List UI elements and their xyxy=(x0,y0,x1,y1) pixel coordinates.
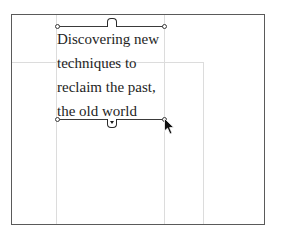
column-guide-right xyxy=(203,62,204,224)
text-frame[interactable]: Discovering new techniques to reclaim th… xyxy=(57,27,167,123)
arrow-cursor-icon xyxy=(164,118,176,136)
text-line: reclaim the past, xyxy=(57,75,167,99)
text-line: techniques to xyxy=(57,51,167,75)
text-line: the old world xyxy=(57,99,167,123)
text-line: Discovering new xyxy=(57,27,167,51)
in-port-icon[interactable] xyxy=(107,18,117,27)
